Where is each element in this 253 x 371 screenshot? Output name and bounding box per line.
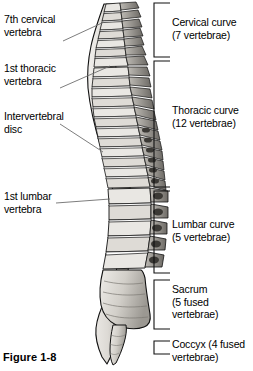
lumbar-vertebrae xyxy=(103,188,168,269)
bracket-coccyx xyxy=(154,341,170,354)
bracket-cervical xyxy=(154,3,170,57)
label-sacrum: Sacrum (5 fused vertebrae) xyxy=(172,283,218,321)
coccyx-bone xyxy=(110,325,126,365)
leader-line-l1 xyxy=(56,199,110,203)
label-thoracic-curve: Thoracic curve (12 vertebrae) xyxy=(172,104,239,129)
bracket-sacrum xyxy=(154,280,170,329)
label-coccyx: Coccyx (4 fused vertebrae) xyxy=(172,338,245,363)
label-intervertebral-disc: Intervertebral disc xyxy=(4,110,64,135)
label-1st-thoracic-vertebra: 1st thoracic vertebra xyxy=(4,62,56,87)
label-cervical-curve: Cervical curve (7 vertebrae) xyxy=(172,16,236,41)
label-1st-lumbar-vertebra: 1st lumbar vertebra xyxy=(4,190,52,215)
figure-caption: Figure 1-8 xyxy=(3,351,57,363)
label-7th-cervical-vertebra: 7th cervical vertebra xyxy=(4,13,55,38)
label-lumbar-curve: Lumbar curve (5 vertebrae) xyxy=(172,218,234,243)
thoracic-vertebrae xyxy=(92,67,166,190)
spine-figure: 7th cervical vertebra 1st thoracic verte… xyxy=(0,0,253,371)
